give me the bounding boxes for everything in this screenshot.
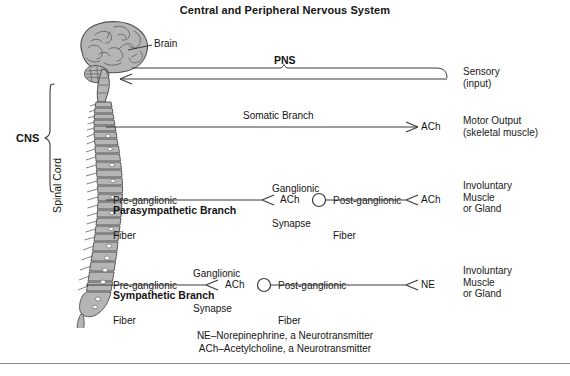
para-pre-arrowhead [262, 195, 274, 205]
para-post-fiber-label: Post-ganglionic Fiber [333, 172, 401, 264]
symp-target-line3: or Gland [463, 288, 512, 300]
sensory-pathway [106, 64, 454, 96]
symp-target-label: Involuntary Muscle or Gland [463, 265, 512, 300]
para-pre-fiber-line2: Fiber [113, 230, 177, 242]
legend-line-ach: ACh–Acetylcholine, a Neurotransmitter [0, 343, 570, 355]
brain-leader-line [128, 40, 154, 52]
symp-target-line2: Muscle [463, 277, 512, 289]
sympathetic-branch-label: Sympathetic Branch [113, 290, 215, 302]
symp-post-arrowhead [406, 280, 418, 290]
para-target-line1: Involuntary [463, 180, 512, 192]
sensory-target-line2: (input) [463, 78, 500, 90]
para-pre-neurotransmitter: ACh [280, 194, 299, 206]
brain-label: Brain [154, 38, 177, 50]
para-synapse-line2: Synapse [272, 218, 319, 230]
symp-post-neurotransmitter: NE [421, 279, 435, 291]
para-ganglion-circle [313, 194, 326, 207]
somatic-neurotransmitter: ACh [421, 121, 440, 133]
para-target-line2: Muscle [463, 192, 512, 204]
symp-synapse-line2: Synapse [193, 303, 240, 315]
diagram-canvas: Central and Peripheral Nervous System [0, 0, 570, 376]
sensory-target-line1: Sensory [463, 66, 500, 78]
figure-title: Central and Peripheral Nervous System [0, 5, 570, 17]
somatic-target-line1: Motor Output [463, 115, 538, 127]
symp-target-line1: Involuntary [463, 265, 512, 277]
symp-post-fiber-line2: Fiber [278, 315, 346, 327]
para-target-label: Involuntary Muscle or Gland [463, 180, 512, 215]
somatic-pathway [106, 120, 431, 134]
para-post-neurotransmitter: ACh [421, 194, 440, 206]
cns-label: CNS [16, 133, 39, 145]
para-post-arrowhead [406, 195, 418, 205]
sensory-target-label: Sensory (input) [463, 66, 500, 89]
symp-ganglion-circle [258, 279, 271, 292]
spinal-cord-label: Spinal Cord [52, 158, 64, 213]
para-pre-fiber-label: Pre-ganglionic Fiber [113, 172, 177, 264]
parasympathetic-branch-label: Parasympathetic Branch [113, 205, 236, 217]
somatic-target-line2: (skeletal muscle) [463, 127, 538, 139]
para-post-fiber-line2: Fiber [333, 230, 401, 242]
bottom-divider [0, 363, 570, 364]
symp-pre-fiber-line2: Fiber [113, 315, 177, 327]
somatic-target-label: Motor Output (skeletal muscle) [463, 115, 538, 138]
symp-pre-neurotransmitter: ACh [225, 279, 244, 291]
para-target-line3: or Gland [463, 203, 512, 215]
legend-line-ne: NE–Norepinephrine, a Neurotransmitter [0, 330, 570, 342]
